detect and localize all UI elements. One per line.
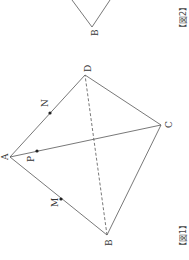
label-b: B — [104, 239, 114, 246]
edge-ad — [10, 75, 85, 157]
fig2-edge-right — [92, 0, 110, 27]
label-a: A — [0, 153, 10, 161]
label-p: P — [26, 156, 36, 162]
label-d: D — [83, 65, 93, 72]
label-c: C — [164, 121, 174, 128]
label-n: N — [40, 99, 50, 107]
point-p — [35, 149, 38, 152]
label-m: M — [50, 198, 60, 207]
edge-bc — [107, 125, 161, 235]
caption-figure-1: 【図1】 — [179, 221, 188, 250]
edge-ac — [10, 125, 161, 157]
caption-figure-2: 【図2】 — [179, 3, 188, 32]
fig2-edge-left — [72, 0, 92, 27]
point-n — [48, 111, 51, 114]
edge-ab — [10, 157, 107, 235]
edge-dc — [85, 75, 161, 125]
tetrahedron-diagram: A B C D M N P B 【図1】 【図2】 — [0, 0, 189, 260]
edge-bd-hidden — [85, 75, 107, 235]
fig2-label-b: B — [90, 29, 100, 36]
